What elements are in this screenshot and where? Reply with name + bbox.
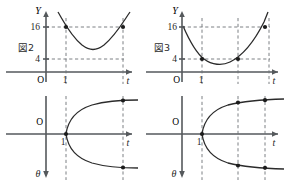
fig2-top-xtick-1: 1 [63,75,68,85]
fig2-top-ytick-4: 4 [35,54,40,64]
fig2-bottom-point-lower [121,165,125,169]
fig3-bottom-point-upper-t2 [236,100,240,104]
fig3-bottom-theta-axis-label: θ [172,168,177,179]
fig2-bottom-theta-axis-arrow [43,171,49,178]
fig3-bottom-point-upper-t3 [263,98,267,102]
fig3-top-y-axis-label: Y [172,5,179,16]
fig3-top-chart: Y t 16 4 O 1 [146,5,278,86]
figure-page: 図2 [0,0,292,189]
fig2-bottom-t-axis-label: t [127,137,130,148]
fig2-top-parabola [58,12,130,50]
fig2-top-chart: Y t 16 4 O 1 [6,5,132,86]
fig2-top-ytick-16: 16 [31,22,41,32]
figure-fig3-svg: Y t 16 4 O 1 [146,0,292,189]
fig2-top-point-left [64,25,68,29]
fig3-bottom-t-axis-arrow [272,131,278,137]
fig3-top-origin-label: O [173,75,180,85]
fig2-top-t-axis-label: t [127,75,130,86]
fig2-top-point-right [121,25,125,29]
fig3-top-t-axis-label: t [273,75,276,86]
fig2-bottom-theta-axis-label: θ [36,168,41,179]
figure-fig2-svg: Y t 16 4 O 1 [0,0,146,189]
fig3-bottom-point-lower-t3 [263,166,267,170]
fig2-bottom-upper-branch [66,100,138,134]
fig3-bottom-point-lower-t2 [236,163,240,167]
fig3-top-point-right4 [236,57,240,61]
fig3-top-point-left4 [200,57,204,61]
fig3-bottom-point-vertex [200,132,204,136]
fig3-bottom-upper-branch [202,99,284,134]
fig3-top-xtick-1: 1 [199,75,204,85]
fig2-bottom-origin-label: O [36,117,43,127]
fig2-bottom-t-axis-arrow [126,131,132,137]
fig3-top-y-axis-arrow [179,11,185,17]
fig3-bottom-xtick-1: 1 [197,137,202,147]
fig3-top-point-16 [263,25,267,29]
fig2-bottom-xtick-1: 1 [61,137,66,147]
fig3-bottom-origin-label: O [172,117,179,127]
fig3-top-ytick-16: 16 [168,22,178,32]
fig2-bottom-point-upper [121,98,125,102]
fig2-top-origin-label: O [37,75,44,85]
fig2-top-y-axis-label: Y [35,5,42,16]
fig3-bottom-theta-axis-arrow [179,171,185,178]
fig3-top-ytick-4: 4 [172,54,177,64]
fig3-top-t-axis-arrow [272,69,278,75]
fig3-bottom-chart: O 1 θ t [146,96,284,180]
fig3-top-parabola [183,12,268,64]
fig3-bottom-t-axis-label: t [273,137,276,148]
fig2-top-t-axis-arrow [126,69,132,75]
fig2-top-y-axis-arrow [43,11,49,17]
figure-panel-fig2: 図2 [0,0,146,189]
figure-panel-fig3: 図3 Y t [146,0,292,189]
fig2-bottom-point-vertex [64,132,68,136]
fig2-bottom-chart: O 1 θ t [6,96,138,180]
